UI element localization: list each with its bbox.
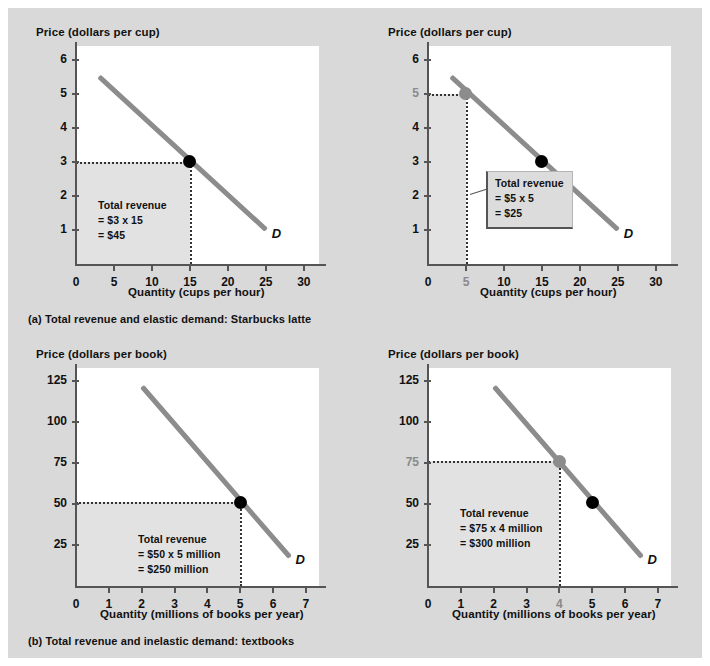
annotation-line: = $75 x 4 million: [460, 521, 543, 536]
dotted-price-line: [428, 461, 559, 463]
y-tick-label: 25: [406, 537, 419, 551]
y-tick-label: 100: [399, 414, 419, 428]
y-tick: [424, 462, 431, 464]
x-tick: [493, 586, 495, 593]
y-axis-line: [427, 364, 429, 586]
x-tick: [591, 586, 593, 593]
x-tick: [526, 586, 528, 593]
chart-panel-panel-b-right: 25507510012501234567DPrice (dollars per …: [8, 8, 702, 658]
annotation-line: Total revenue: [460, 506, 543, 521]
annotation-line: = $300 million: [460, 536, 543, 551]
demand-curve-label: D: [647, 552, 656, 567]
y-tick: [424, 380, 431, 382]
y-tick-label: 50: [406, 496, 419, 510]
data-point-marker: [586, 496, 599, 509]
data-point-marker: [553, 455, 566, 468]
y-tick-label: 75: [406, 455, 419, 469]
x-tick: [624, 586, 626, 593]
x-tick: [558, 586, 560, 593]
x-axis-line: [427, 586, 678, 588]
y-axis-title: Price (dollars per book): [388, 348, 519, 360]
y-tick: [424, 421, 431, 423]
y-tick: [424, 544, 431, 546]
x-tick: [460, 586, 462, 593]
y-tick: [424, 503, 431, 505]
x-tick: [657, 586, 659, 593]
dotted-quantity-line: [559, 461, 561, 586]
figure-page: 123456051015202530DPrice (dollars per cu…: [8, 8, 702, 658]
x-tick-label: 0: [418, 597, 438, 611]
y-tick-label: 125: [399, 373, 419, 387]
x-axis-title: Quantity (millions of books per year): [452, 608, 656, 620]
total-revenue-annotation: Total revenue= $75 x 4 million= $300 mil…: [460, 506, 543, 552]
